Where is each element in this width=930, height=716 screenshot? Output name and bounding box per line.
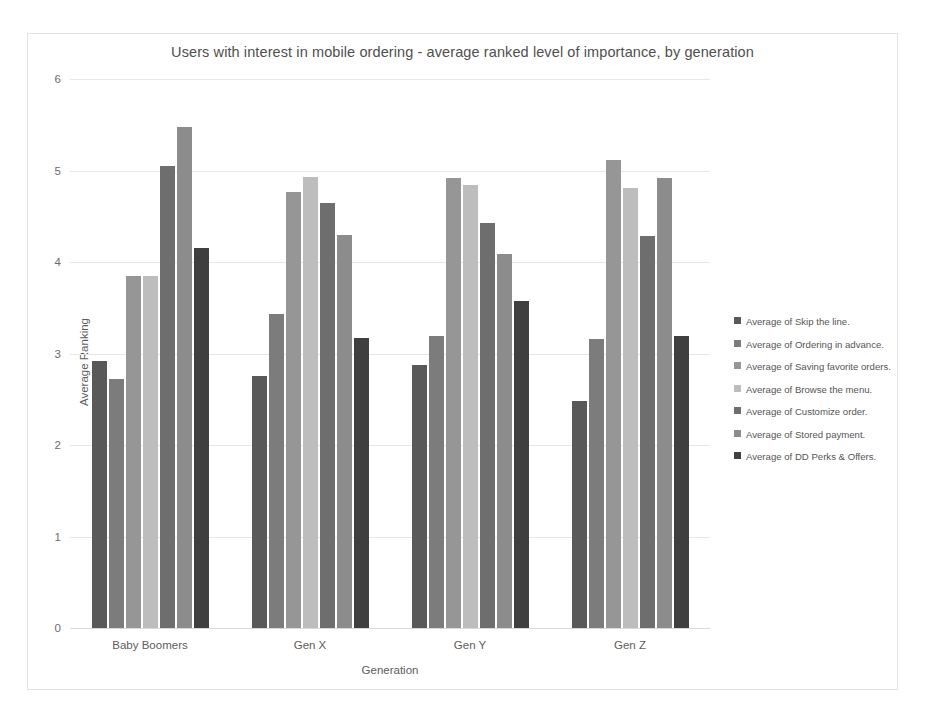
bar[interactable]	[160, 166, 175, 628]
bar[interactable]	[640, 236, 655, 628]
bar[interactable]	[194, 248, 209, 628]
category-group: Baby Boomers	[70, 79, 230, 628]
legend-item[interactable]: Average of Stored payment.	[734, 429, 914, 440]
x-axis-category-label: Baby Boomers	[70, 639, 230, 651]
x-axis-category-label: Gen Y	[390, 639, 550, 651]
bar[interactable]	[463, 185, 478, 628]
bar[interactable]	[269, 314, 284, 628]
bar[interactable]	[589, 339, 604, 628]
legend-swatch-icon	[734, 430, 741, 437]
y-axis-tick-label: 3	[55, 348, 61, 360]
x-axis-baseline	[70, 628, 710, 629]
bar[interactable]	[177, 127, 192, 628]
bar-group	[70, 79, 230, 628]
chart-title: Users with interest in mobile ordering -…	[28, 44, 897, 60]
bar[interactable]	[412, 365, 427, 628]
legend-swatch-icon	[734, 317, 741, 324]
bar[interactable]	[623, 188, 638, 628]
legend-swatch-icon	[734, 385, 741, 392]
legend-swatch-icon	[734, 362, 741, 369]
y-axis-tick-label: 1	[55, 531, 61, 543]
bar[interactable]	[480, 223, 495, 628]
y-axis-tick-label: 5	[55, 165, 61, 177]
legend-item[interactable]: Average of Skip the line.	[734, 316, 914, 327]
category-group: Gen Z	[550, 79, 710, 628]
legend-item[interactable]: Average of Customize order.	[734, 406, 914, 417]
legend-label: Average of Customize order.	[746, 406, 867, 417]
category-group: Gen X	[230, 79, 390, 628]
legend-item[interactable]: Average of Ordering in advance.	[734, 339, 914, 350]
bar[interactable]	[303, 177, 318, 628]
legend-label: Average of Skip the line.	[746, 316, 850, 327]
x-axis-label: Generation	[70, 664, 710, 676]
bar[interactable]	[572, 401, 587, 628]
chart-container: Users with interest in mobile ordering -…	[27, 33, 898, 690]
plot-area: 0123456Baby BoomersGen XGen YGen Z	[70, 79, 710, 628]
bar[interactable]	[109, 379, 124, 628]
bar[interactable]	[429, 336, 444, 628]
bar-group	[230, 79, 390, 628]
y-axis-tick-label: 6	[55, 73, 61, 85]
category-group: Gen Y	[390, 79, 550, 628]
legend-label: Average of Stored payment.	[746, 429, 865, 440]
bar[interactable]	[657, 178, 672, 628]
y-axis-tick-label: 2	[55, 439, 61, 451]
bar[interactable]	[126, 276, 141, 628]
bar[interactable]	[514, 301, 529, 628]
x-axis-category-label: Gen Z	[550, 639, 710, 651]
y-axis-tick-label: 0	[55, 622, 61, 634]
bar[interactable]	[286, 192, 301, 628]
bar-group	[550, 79, 710, 628]
bar[interactable]	[354, 338, 369, 628]
legend-item[interactable]: Average of Saving favorite orders.	[734, 361, 914, 372]
bar[interactable]	[337, 235, 352, 628]
legend-label: Average of Saving favorite orders.	[746, 361, 891, 372]
bar[interactable]	[320, 203, 335, 628]
bar-group	[390, 79, 550, 628]
bar[interactable]	[674, 336, 689, 628]
bar[interactable]	[252, 376, 267, 628]
legend-label: Average of Ordering in advance.	[746, 339, 884, 350]
bar[interactable]	[497, 254, 512, 628]
legend-label: Average of Browse the menu.	[746, 384, 872, 395]
bar[interactable]	[606, 160, 621, 628]
legend-swatch-icon	[734, 452, 741, 459]
bar[interactable]	[446, 178, 461, 628]
bar[interactable]	[143, 276, 158, 628]
legend-swatch-icon	[734, 340, 741, 347]
legend-item[interactable]: Average of DD Perks & Offers.	[734, 451, 914, 462]
bar[interactable]	[92, 361, 107, 628]
legend-item[interactable]: Average of Browse the menu.	[734, 384, 914, 395]
legend-swatch-icon	[734, 407, 741, 414]
chart-legend: Average of Skip the line.Average of Orde…	[734, 316, 914, 474]
legend-label: Average of DD Perks & Offers.	[746, 451, 876, 462]
y-axis-tick-label: 4	[55, 256, 61, 268]
x-axis-category-label: Gen X	[230, 639, 390, 651]
